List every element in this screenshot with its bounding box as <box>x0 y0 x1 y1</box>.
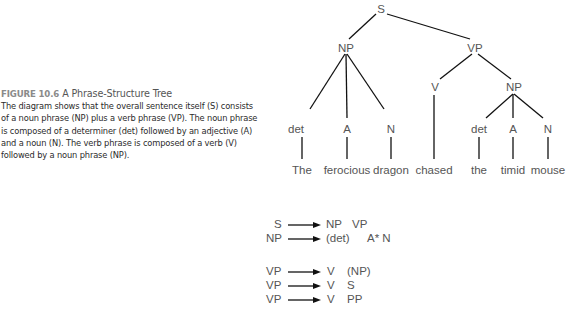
rule-arrows <box>288 222 321 303</box>
node-n-right: N <box>544 123 552 135</box>
rule-3-lhs: VP <box>266 265 281 277</box>
rule-1-rhs-2: VP <box>352 218 367 230</box>
node-v: V <box>431 81 439 93</box>
rule-2-rhs-1: (det) <box>326 232 350 244</box>
rule-2-rhs-2: A* N <box>367 232 391 244</box>
node-vp: VP <box>467 42 483 54</box>
node-a-right: A <box>509 123 517 135</box>
word-timid: timid <box>501 164 525 176</box>
rule-2-lhs: NP <box>266 232 282 244</box>
rule-3-rhs-2: (NP) <box>347 265 371 277</box>
rule-5-rhs-1: V <box>327 293 335 305</box>
node-det-right: det <box>471 123 488 135</box>
word-chased: chased <box>415 164 452 176</box>
rule-4-rhs-1: V <box>327 279 335 291</box>
word-the: The <box>292 164 312 176</box>
word-mouse: mouse <box>531 164 566 176</box>
rule-3-rhs-1: V <box>327 265 335 277</box>
node-s: S <box>377 3 385 15</box>
node-np-subject: NP <box>338 42 354 54</box>
rule-5-rhs-2: PP <box>347 293 362 305</box>
rule-4-rhs-2: S <box>347 279 355 291</box>
node-np-object: NP <box>506 81 522 93</box>
node-det-left: det <box>288 123 305 135</box>
node-a-left: A <box>343 123 351 135</box>
rule-1-rhs-1: NP <box>326 218 342 230</box>
rule-4-lhs: VP <box>266 279 281 291</box>
word-dragon: dragon <box>373 164 409 176</box>
word-ferocious: ferocious <box>324 164 371 176</box>
word-the-2: the <box>471 164 487 176</box>
node-n-left: N <box>387 123 395 135</box>
phrase-structure-tree: S NP VP V NP det A N det A N The ferocio… <box>0 0 568 321</box>
rule-1-lhs: S <box>274 218 282 230</box>
rule-5-lhs: VP <box>266 293 281 305</box>
